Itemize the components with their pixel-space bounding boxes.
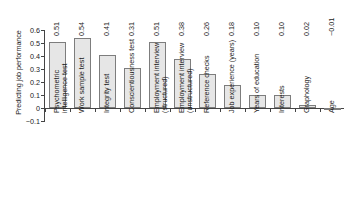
bar-value-label: −0.01 bbox=[327, 18, 336, 36]
y-axis-tick-label: 0 bbox=[36, 104, 40, 113]
x-axis-category-label: Employment interview(structured) bbox=[153, 43, 170, 113]
y-axis-tick-mark bbox=[41, 56, 45, 57]
category-label-line: Integrity test bbox=[102, 74, 111, 113]
bar-value-label: 0.10 bbox=[252, 22, 261, 36]
x-axis-category-label: Interests bbox=[278, 85, 286, 113]
category-label-line: intelligence test bbox=[62, 63, 70, 113]
bar-value-label: 0.10 bbox=[277, 22, 286, 36]
x-axis-category-label: Psychometricintelligence test bbox=[53, 63, 70, 113]
x-axis-tick-mark bbox=[70, 108, 71, 112]
y-axis-title-text: Predicting job performance bbox=[14, 30, 23, 115]
x-axis-category-label: Reference checks bbox=[203, 55, 211, 113]
bar-value-label: 0.26 bbox=[202, 22, 211, 36]
x-axis-category-label: Conscientiousness test bbox=[128, 39, 136, 113]
y-axis-tick-label: 0.6 bbox=[30, 26, 40, 35]
bar-value-label: 0.31 bbox=[127, 22, 136, 36]
y-axis-tick-label: 0.1 bbox=[30, 91, 40, 100]
category-label-line: Job experience (years) bbox=[227, 40, 236, 113]
bar-value-label: 0.02 bbox=[302, 22, 311, 36]
y-axis-tick-label: 0.2 bbox=[30, 78, 40, 87]
category-label-line: Graphology bbox=[302, 76, 311, 113]
bar-value-label: 0.54 bbox=[77, 22, 86, 36]
x-axis-category-label: Job experience (years) bbox=[228, 40, 236, 113]
y-axis-tick-label: 0.4 bbox=[30, 52, 40, 61]
x-axis-tick-mark bbox=[120, 108, 121, 112]
bar-chart: Predicting job performance 0.60.50.40.30… bbox=[0, 0, 345, 208]
x-axis-category-label: Graphology bbox=[303, 76, 311, 113]
bar-value-label: 0.41 bbox=[102, 22, 111, 36]
y-axis-tick-mark bbox=[41, 95, 45, 96]
x-axis-tick-mark bbox=[220, 108, 221, 112]
x-axis-tick-mark bbox=[195, 108, 196, 112]
bar-value-label: 0.51 bbox=[52, 22, 61, 36]
y-axis-tick-mark bbox=[41, 43, 45, 44]
category-label-line: Work sample test bbox=[77, 58, 86, 113]
bar-value-label: 0.18 bbox=[227, 22, 236, 36]
x-axis-category-label: Work sample test bbox=[78, 58, 86, 113]
category-label-line: (unstructured) bbox=[187, 43, 195, 113]
x-axis-tick-mark bbox=[45, 108, 46, 112]
x-axis-tick-mark bbox=[95, 108, 96, 112]
x-axis-category-label: Years of education bbox=[253, 54, 261, 113]
category-label-line: (structured) bbox=[162, 43, 170, 113]
x-axis-category-label: Employment interview(unstructured) bbox=[178, 43, 195, 113]
category-label-line: Conscientiousness test bbox=[127, 39, 136, 113]
y-axis-tick-mark bbox=[41, 82, 45, 83]
y-axis-title: Predicting job performance bbox=[11, 20, 25, 125]
x-axis-tick-mark bbox=[170, 108, 171, 112]
x-axis-tick-mark bbox=[245, 108, 246, 112]
x-axis-tick-mark bbox=[320, 108, 321, 112]
y-axis-tick-mark bbox=[41, 69, 45, 70]
x-axis-tick-mark bbox=[145, 108, 146, 112]
bar-value-label: 0.38 bbox=[177, 22, 186, 36]
y-axis-tick-label: 0.3 bbox=[30, 65, 40, 74]
y-axis-tick-label: 0.5 bbox=[30, 39, 40, 48]
category-label-line: Interests bbox=[277, 85, 286, 113]
category-label-line: Age bbox=[327, 100, 336, 113]
category-label-line: Reference checks bbox=[202, 55, 211, 113]
x-axis-category-label: Age bbox=[328, 100, 336, 113]
x-axis-tick-mark bbox=[270, 108, 271, 112]
y-axis-tick-mark bbox=[41, 30, 45, 31]
y-axis-tick-mark bbox=[41, 121, 45, 122]
bar-value-label: 0.51 bbox=[152, 22, 161, 36]
y-axis-tick-label: −0.1 bbox=[26, 117, 40, 126]
x-axis-tick-mark bbox=[295, 108, 296, 112]
x-axis-category-label: Integrity test bbox=[103, 74, 111, 113]
category-label-line: Years of education bbox=[252, 54, 261, 113]
